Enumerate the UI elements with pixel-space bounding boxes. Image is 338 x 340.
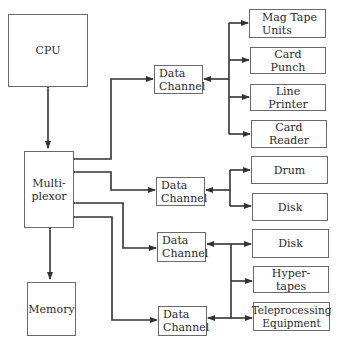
mux-dc3-arrow xyxy=(76,203,156,248)
data-channel-2-label: Data Channel xyxy=(161,179,207,205)
data-channel-4-box: Data Channel xyxy=(158,306,207,336)
hyper-tapes-label: Hyper- tapes xyxy=(272,267,310,293)
card-punch-box: Card Punch xyxy=(250,47,326,74)
data-channel-1-label: Data Channel xyxy=(159,67,205,93)
memory-box: Memory xyxy=(27,282,76,336)
mux-dc4-arrow xyxy=(76,217,157,320)
mux-dc2-arrow xyxy=(76,172,155,190)
data-channel-1-box: Data Channel xyxy=(154,65,203,94)
drum-label: Drum xyxy=(274,164,306,177)
card-punch-label: Card Punch xyxy=(271,48,306,74)
teleprocessing-equipment-box: Teleprocessing Equipment xyxy=(253,302,330,331)
hyper-tapes-box: Hyper- tapes xyxy=(253,266,329,293)
card-reader-label: Card Reader xyxy=(269,121,309,147)
cpu-label: CPU xyxy=(36,44,61,57)
data-channel-4-label: Data Channel xyxy=(163,308,209,334)
cpu-box: CPU xyxy=(8,14,88,87)
data-channel-2-box: Data Channel xyxy=(156,177,205,206)
disk-1-box: Disk xyxy=(252,193,328,221)
memory-label: Memory xyxy=(28,303,74,316)
disk-2-box: Disk xyxy=(252,229,329,258)
mux-dc1-arrow xyxy=(76,79,153,159)
line-printer-box: Line Printer xyxy=(250,84,326,111)
multiplexor-label: Multi- plexor xyxy=(31,177,66,203)
disk-1-label: Disk xyxy=(278,201,303,214)
mag-tape-units-label: Mag Tape Units xyxy=(262,11,317,37)
card-reader-box: Card Reader xyxy=(251,120,327,148)
line-printer-label: Line Printer xyxy=(268,85,307,111)
data-channel-3-box: Data Channel xyxy=(157,232,206,262)
drum-box: Drum xyxy=(251,156,328,184)
mag-tape-units-box: Mag Tape Units xyxy=(249,9,326,38)
data-channel-3-label: Data Channel xyxy=(162,234,208,260)
disk-2-label: Disk xyxy=(278,237,303,250)
multiplexor-box: Multi- plexor xyxy=(24,151,74,228)
teleprocessing-equipment-label: Teleprocessing Equipment xyxy=(252,304,332,330)
